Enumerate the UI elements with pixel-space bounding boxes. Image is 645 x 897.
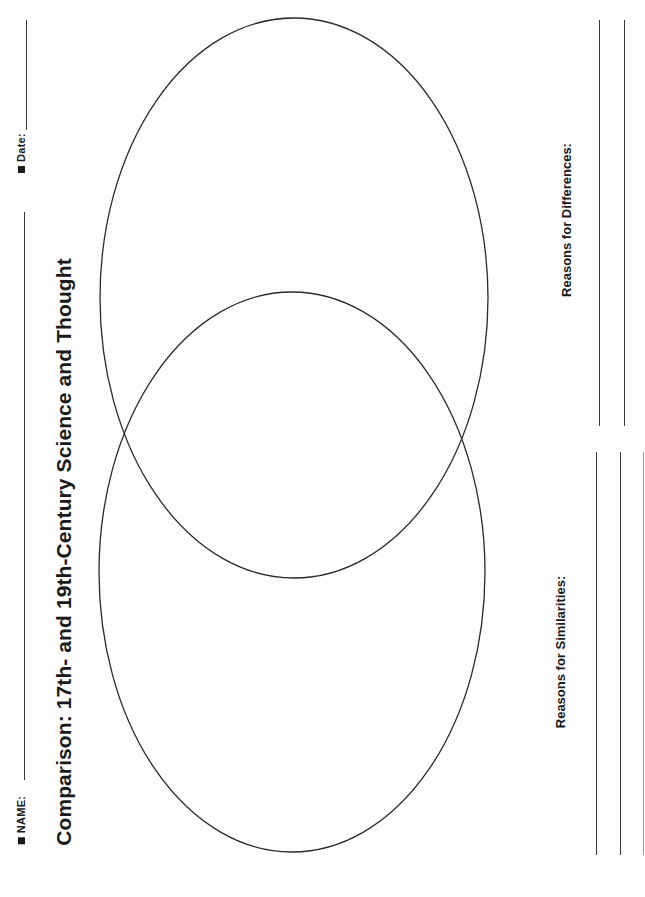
venn-circle-bottom[interactable] (99, 292, 485, 852)
similarities-label: Reasons for Similarities: (553, 576, 568, 728)
worksheet-page: Date: NAME: Comparison: 17th- and 19th-C… (0, 0, 645, 897)
venn-circle-top[interactable] (100, 18, 488, 578)
venn-diagram (0, 0, 645, 897)
similarities-write-line-1[interactable] (596, 452, 597, 855)
differences-write-line-2[interactable] (624, 20, 625, 426)
similarities-write-line-2[interactable] (620, 452, 621, 855)
page-edge-line (643, 452, 644, 855)
differences-write-line-1[interactable] (599, 20, 600, 426)
differences-label: Reasons for Differences: (559, 143, 574, 297)
